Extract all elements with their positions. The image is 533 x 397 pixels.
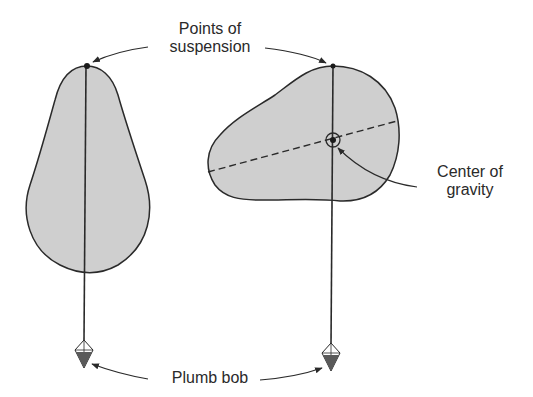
- pear-shape-outline: [26, 66, 149, 273]
- plumb-bob-left-icon: [75, 340, 93, 368]
- arrow-to-suspension-left: [93, 47, 148, 62]
- center-of-gravity-label: Center of gravity: [420, 163, 520, 199]
- arrow-to-plumb-bob-left: [92, 364, 148, 379]
- points-of-suspension-line1: Points of: [145, 20, 275, 38]
- suspension-point-left: [84, 63, 90, 69]
- pear-shaped-object: [26, 63, 149, 340]
- arrow-to-plumb-bob-right: [260, 368, 322, 380]
- plumb-bob-label: Plumb bob: [155, 369, 265, 387]
- center-of-gravity-line1: Center of: [420, 163, 520, 181]
- points-of-suspension-label: Points of suspension: [145, 20, 275, 56]
- center-of-gravity-line2: gravity: [420, 181, 520, 199]
- suspension-point-right: [331, 64, 336, 69]
- plumb-bob-right-icon: [322, 343, 340, 371]
- irregular-object: [208, 64, 399, 346]
- irregular-shape-outline: [208, 66, 399, 201]
- center-of-gravity-dot: [330, 137, 336, 143]
- points-of-suspension-line2: suspension: [145, 38, 275, 56]
